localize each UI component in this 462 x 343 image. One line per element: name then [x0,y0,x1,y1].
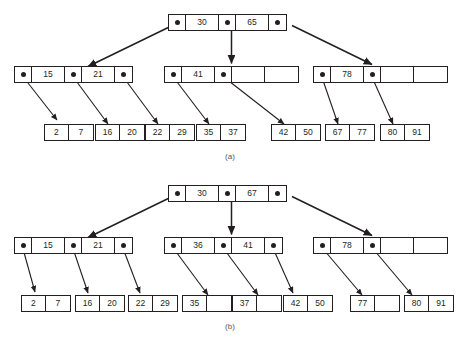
leaf-node-b-6-key-1: 50 [308,296,332,311]
root-node-b-pointer-0 [169,186,186,201]
internal-node-a-right-blank-1 [414,67,447,82]
leaf-node-a-7: 80 91 [380,124,430,141]
internal-node-b-middle-key-1: 41 [232,238,265,253]
internal-node-b-right-pointer-0 [314,238,331,253]
leaf-node-a-7-key-1: 91 [405,125,429,140]
arrow-layer [0,0,462,343]
leaf-node-b-4: 35 [182,295,232,312]
pointer-dot-icon [21,72,26,77]
internal-node-a-middle-blank-0 [232,67,265,82]
pointer-dot-icon [275,20,280,25]
leaf-node-b-6-key-0: 42 [284,296,308,311]
internal-node-b-left-pointer-0 [15,238,32,253]
leaf-node-b-8-key-1: 91 [429,296,453,311]
leaf-node-b-8: 80 91 [404,295,454,312]
internal-node-a-left-key-1: 21 [82,67,115,82]
btree-figure: 30 65 15 21 41 78 2 7 16 20 22 29 [0,0,462,343]
leaf-node-a-2-key-1: 20 [120,125,144,140]
pointer-dot-icon [221,72,226,77]
leaf-node-a-5: 42 50 [271,124,321,141]
internal-node-b-left-pointer-2 [115,238,132,253]
internal-node-a-right-pointer-1 [364,67,381,82]
internal-node-a-middle: 41 [164,66,299,83]
leaf-node-b-5: 37 [232,295,282,312]
internal-node-b-middle-key-0: 36 [182,238,215,253]
panel-b-caption: (b) [210,322,250,331]
leaf-node-a-1: 2 7 [44,124,94,141]
root-node-a: 30 65 [168,14,287,31]
leaf-node-b-1-key-0: 2 [22,296,46,311]
leaf-node-b-2: 16 20 [75,295,125,312]
internal-node-a-middle-blank-1 [265,67,298,82]
internal-node-a-left-pointer-0 [15,67,32,82]
pointer-dot-icon [221,243,226,248]
leaf-node-a-3-key-0: 22 [146,125,170,140]
internal-node-a-left-pointer-1 [65,67,82,82]
leaf-node-b-4-key-0: 35 [183,296,207,311]
pointer-dot-icon [121,72,126,77]
internal-node-a-left-key-0: 15 [32,67,65,82]
leaf-node-a-3-key-1: 29 [170,125,194,140]
arrows-b-internal [23,247,413,295]
root-node-b-pointer-1 [219,186,236,201]
leaf-node-b-7-key-1 [375,296,399,311]
pointer-dot-icon [370,243,375,248]
pointer-dot-icon [271,243,276,248]
pointer-dot-icon [320,72,325,77]
pointer-dot-icon [21,243,26,248]
leaf-node-b-1-key-1: 7 [46,296,70,311]
leaf-node-a-6-key-0: 67 [326,125,350,140]
leaf-node-a-5-key-0: 42 [272,125,296,140]
leaf-node-a-4: 35 37 [196,124,246,141]
pointer-dot-icon [370,72,375,77]
pointer-dot-icon [320,243,325,248]
leaf-node-b-3-key-0: 22 [129,296,153,311]
leaf-node-b-5-key-0: 37 [233,296,257,311]
internal-node-b-right-pointer-1 [364,238,381,253]
root-node-b-key-1: 67 [236,186,269,201]
panel-a-caption: (a) [210,152,250,161]
internal-node-b-middle-pointer-2 [265,238,282,253]
pointer-dot-icon [171,243,176,248]
internal-node-b-right-key-0: 78 [331,238,364,253]
internal-node-b-left-key-0: 15 [32,238,65,253]
leaf-node-a-7-key-0: 80 [381,125,405,140]
root-node-a-pointer-1 [219,15,236,30]
leaf-node-a-4-key-0: 35 [197,125,221,140]
leaf-node-a-6: 67 77 [325,124,375,141]
leaf-node-a-6-key-1: 77 [350,125,374,140]
internal-node-b-middle: 36 41 [164,237,283,254]
leaf-node-b-1: 2 7 [21,295,71,312]
internal-node-a-right-blank-0 [381,67,414,82]
leaf-node-b-3: 22 29 [128,295,178,312]
internal-node-b-right-blank-1 [414,238,447,253]
internal-node-a-left: 15 21 [14,66,133,83]
internal-node-b-middle-pointer-1 [215,238,232,253]
pointer-dot-icon [225,20,230,25]
internal-node-b-right-blank-0 [381,238,414,253]
internal-node-b-right: 78 [313,237,448,254]
internal-node-b-left-key-1: 21 [82,238,115,253]
internal-node-a-middle-pointer-0 [165,67,182,82]
root-node-a-key-1: 65 [236,15,269,30]
root-node-a-pointer-2 [269,15,286,30]
internal-node-a-right-pointer-0 [314,67,331,82]
leaf-node-b-2-key-0: 16 [76,296,100,311]
internal-node-b-left: 15 21 [14,237,133,254]
leaf-node-b-3-key-1: 29 [153,296,177,311]
leaf-node-a-1-key-0: 2 [45,125,69,140]
internal-node-a-middle-key-0: 41 [182,67,215,82]
root-node-a-pointer-0 [169,15,186,30]
leaf-node-b-4-key-1 [207,296,231,311]
leaf-node-b-7-key-0: 77 [351,296,375,311]
leaf-node-a-1-key-1: 7 [69,125,93,140]
arrows-a-internal [23,76,394,124]
root-node-b-key-0: 30 [186,186,219,201]
leaf-node-a-2-key-0: 16 [96,125,120,140]
internal-node-a-left-pointer-2 [115,67,132,82]
pointer-dot-icon [225,191,230,196]
pointer-dot-icon [121,243,126,248]
internal-node-b-middle-pointer-0 [165,238,182,253]
pointer-dot-icon [171,72,176,77]
pointer-dot-icon [175,191,180,196]
